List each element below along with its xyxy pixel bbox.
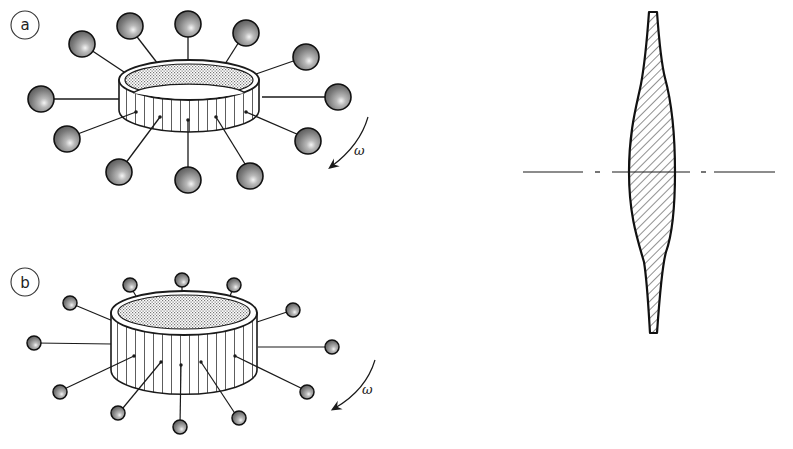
svg-text:b: b [20,274,30,292]
sphere-icon [175,273,189,287]
sphere-icon [69,31,95,57]
rotation-arrow-a: ω [332,117,368,166]
sphere-icon [173,420,187,434]
sphere-icon [293,44,319,70]
sphere-icon [123,278,137,292]
panel-b: b [11,268,375,434]
sphere-icon [232,411,246,425]
sphere-icon [106,159,132,185]
rotation-arrow-b: ω [335,360,375,408]
svg-text:ω: ω [354,143,365,158]
sphere-icon [111,406,125,420]
sphere-icon [233,20,259,46]
sphere-icon [53,385,67,399]
cylinder-b [111,291,257,394]
sphere-icon [175,167,201,193]
sphere-icon [325,340,339,354]
panel-label-a: a [11,11,39,39]
sphere-icon [286,303,300,317]
sphere-icon [300,385,314,399]
sphere-icon [325,84,351,110]
sphere-icon [117,13,143,39]
panel-c-disc-section [523,12,775,333]
sphere-icon [63,296,77,310]
sphere-icon [27,336,41,350]
diagram-canvas: a [0,0,793,449]
sphere-icon [54,126,80,152]
svg-text:ω: ω [362,382,373,397]
sphere-icon [28,86,54,112]
sphere-icon [237,163,263,189]
sphere-icon [175,11,201,37]
sphere-icon [227,278,241,292]
sphere-icon [295,128,321,154]
panel-label-b: b [11,268,39,296]
panel-a: a [11,11,368,193]
svg-text:a: a [20,16,29,34]
